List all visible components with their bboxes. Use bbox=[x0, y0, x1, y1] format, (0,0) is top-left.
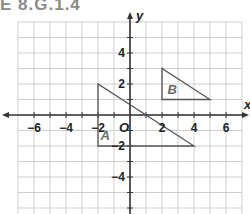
coordinate-plane: AB−6−4−224642−2−4Oxy bbox=[0, 0, 250, 214]
x-axis-left-arrow-icon bbox=[2, 112, 9, 118]
y-tick-label: −4 bbox=[111, 170, 125, 184]
y-axis-label: y bbox=[135, 8, 144, 23]
y-axis-up-arrow-icon bbox=[127, 12, 133, 19]
x-axis-right-arrow-icon bbox=[242, 112, 249, 118]
y-tick-label: 2 bbox=[118, 77, 125, 91]
y-tick-label: 4 bbox=[118, 46, 125, 60]
x-tick-label: 6 bbox=[223, 121, 230, 135]
x-tick-label: −4 bbox=[59, 121, 73, 135]
x-tick-label: 4 bbox=[191, 121, 198, 135]
axis-labels: AB−6−4−224642−2−4Oxy bbox=[27, 8, 250, 184]
origin-label: O bbox=[119, 120, 129, 135]
x-tick-label: −6 bbox=[27, 121, 41, 135]
triangle-b-label: B bbox=[168, 82, 177, 97]
x-axis-label: x bbox=[243, 97, 250, 112]
x-tick-label: −2 bbox=[91, 121, 105, 135]
x-tick-label: 2 bbox=[159, 121, 166, 135]
y-tick-label: −2 bbox=[111, 139, 125, 153]
axes bbox=[2, 12, 249, 214]
